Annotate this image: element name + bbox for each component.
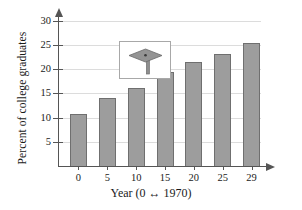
bar <box>99 98 116 166</box>
bar <box>185 62 202 166</box>
bar <box>128 88 145 166</box>
x-tick-mark <box>223 166 224 170</box>
x-tick-mark <box>252 166 253 170</box>
y-tick-mark <box>53 21 63 22</box>
x-tick-label: 15 <box>160 173 171 184</box>
x-tick-mark <box>165 166 166 170</box>
bar <box>214 54 231 166</box>
y-tick-label: 20 <box>41 64 52 75</box>
bar-chart-figure: Percent of college graduates 51015202530… <box>0 0 302 210</box>
bar <box>243 43 260 166</box>
x-axis-title: Year (0 ↔ 1970) <box>0 186 302 201</box>
y-axis-line <box>58 16 59 166</box>
x-axis-arrowhead <box>266 163 275 171</box>
y-tick-label: 25 <box>41 40 52 51</box>
x-tick-label: 29 <box>246 173 257 184</box>
y-axis-title: Percent of college graduates <box>16 13 28 183</box>
y-tick-mark <box>53 45 63 46</box>
y-tick-label: 10 <box>41 112 52 123</box>
graduation-cap-icon <box>127 46 165 76</box>
x-tick-mark <box>78 166 79 170</box>
x-axis-line <box>58 166 268 167</box>
bar <box>70 114 87 166</box>
y-tick-label: 5 <box>46 137 51 148</box>
gridline <box>58 21 261 22</box>
y-tick-mark <box>53 142 63 143</box>
y-tick-label: 30 <box>41 16 52 27</box>
graduation-cap-inset <box>119 41 171 79</box>
y-tick-mark <box>53 69 63 70</box>
y-axis-arrowhead <box>55 8 63 17</box>
y-tick-mark <box>53 118 63 119</box>
y-tick-label: 15 <box>41 88 52 99</box>
y-tick-mark <box>53 93 63 94</box>
x-tick-label: 10 <box>131 173 142 184</box>
x-tick-mark <box>194 166 195 170</box>
x-tick-mark <box>136 166 137 170</box>
x-tick-label: 0 <box>76 173 81 184</box>
x-tick-label: 25 <box>217 173 228 184</box>
bar <box>157 72 174 166</box>
x-tick-label: 20 <box>189 173 200 184</box>
plot-area: 51015202530 051015202529 <box>58 16 273 166</box>
x-tick-mark <box>107 166 108 170</box>
x-tick-label: 5 <box>105 173 110 184</box>
